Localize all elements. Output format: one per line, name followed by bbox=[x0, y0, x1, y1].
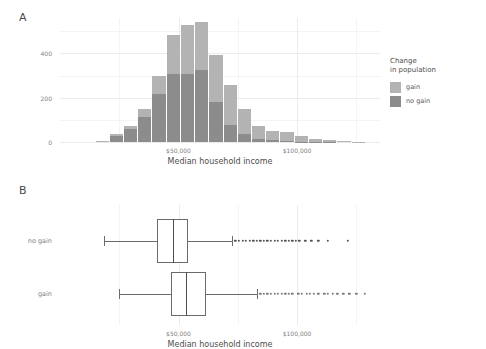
histogram-bar bbox=[110, 134, 123, 142]
histogram-segment-gain bbox=[323, 140, 336, 142]
boxplot-outlier bbox=[252, 240, 254, 242]
boxplot-outlier bbox=[280, 293, 282, 295]
boxplot-outlier bbox=[305, 293, 307, 295]
histogram-segment-no-gain bbox=[152, 94, 165, 142]
gridline-x-minor-125000 bbox=[356, 205, 357, 325]
histogram-segment-no-gain bbox=[280, 141, 293, 142]
boxplot-outlier bbox=[304, 240, 306, 242]
boxplot-outlier bbox=[263, 240, 265, 242]
histogram-bar bbox=[209, 55, 222, 142]
histogram-segment-no-gain bbox=[252, 139, 265, 142]
histogram-segment-gain bbox=[181, 25, 194, 74]
boxplot-outlier bbox=[348, 293, 350, 295]
boxplot-median-line bbox=[173, 219, 174, 263]
legend-a-title-line1: Change bbox=[390, 57, 486, 66]
histogram-bar bbox=[280, 132, 293, 142]
histogram-segment-gain bbox=[209, 55, 222, 103]
boxplot-outlier bbox=[259, 240, 261, 242]
boxplot-outlier bbox=[284, 240, 286, 242]
legend-a-item-no-gain[interactable]: no gain bbox=[390, 94, 486, 108]
panel-b-row-label-gain: gain bbox=[8, 290, 52, 298]
boxplot-outlier bbox=[310, 240, 312, 242]
histogram-segment-gain bbox=[110, 134, 123, 136]
boxplot-outlier bbox=[363, 293, 365, 295]
panel-b-xtick-50000: $50,000 bbox=[166, 330, 191, 337]
figure-root: A 0200400$50,000$100,000Median household… bbox=[0, 0, 486, 349]
histogram-bar bbox=[295, 136, 308, 142]
histogram-segment-no-gain bbox=[138, 117, 151, 142]
legend-a-label-no-gain: no gain bbox=[406, 97, 430, 105]
histogram-segment-no-gain bbox=[209, 102, 222, 142]
boxplot-outlier bbox=[263, 293, 265, 295]
histogram-segment-gain bbox=[295, 136, 308, 141]
boxplot-outlier bbox=[327, 293, 329, 295]
histogram-bar bbox=[96, 141, 109, 142]
boxplot-whisker-cap bbox=[119, 289, 120, 299]
panel-b: B $50,000$100,000no gaingainMedian house… bbox=[0, 175, 486, 349]
boxplot-outlier bbox=[342, 293, 344, 295]
boxplot-outlier bbox=[241, 240, 243, 242]
panel-a-xtick-100000: $100,000 bbox=[283, 147, 312, 154]
histogram-segment-no-gain bbox=[266, 140, 279, 142]
histogram-segment-gain bbox=[280, 132, 293, 141]
panel-a-plot-area bbox=[60, 18, 380, 142]
boxplot-outlier bbox=[301, 293, 303, 295]
histogram-segment-gain bbox=[124, 126, 137, 129]
legend-swatch-no-gain-icon bbox=[390, 96, 401, 107]
histogram-bar bbox=[195, 22, 208, 142]
histogram-segment-no-gain bbox=[195, 70, 208, 142]
legend-a-item-gain[interactable]: gain bbox=[390, 80, 486, 94]
boxplot-outlier bbox=[277, 240, 279, 242]
histogram-bar bbox=[167, 35, 180, 142]
histogram-bar bbox=[309, 139, 322, 142]
histogram-segment-gain bbox=[224, 85, 237, 124]
panel-b-xtick-100000: $100,000 bbox=[283, 330, 312, 337]
boxplot-whisker-cap bbox=[232, 236, 233, 246]
histogram-bar bbox=[152, 76, 165, 142]
panel-b-xaxis-title: Median household income bbox=[168, 340, 273, 349]
boxplot-outlier bbox=[266, 293, 268, 295]
histogram-bar bbox=[181, 25, 194, 142]
histogram-segment-gain bbox=[195, 22, 208, 70]
boxplot-outlier bbox=[317, 293, 319, 295]
panel-a-xaxis-title: Median household income bbox=[168, 157, 273, 166]
panel-a-ytick-400: 400 bbox=[22, 50, 52, 57]
gridline-y-0 bbox=[60, 142, 380, 143]
legend-a-title-line2: in population bbox=[390, 66, 486, 75]
histogram-segment-no-gain bbox=[96, 141, 109, 142]
boxplot-outlier bbox=[280, 240, 282, 242]
boxplot-outlier bbox=[256, 240, 258, 242]
gridline-x-100000 bbox=[297, 18, 298, 142]
boxplot-outlier bbox=[266, 240, 268, 242]
histogram-bar bbox=[252, 126, 265, 142]
histogram-segment-no-gain bbox=[110, 136, 123, 142]
histogram-segment-no-gain bbox=[124, 129, 137, 142]
panel-b-row-label-no-gain: no gain bbox=[8, 237, 52, 245]
panel-a-ytick-200: 200 bbox=[22, 94, 52, 101]
boxplot-outlier bbox=[317, 240, 319, 242]
panel-b-plot-area bbox=[60, 205, 380, 325]
boxplot-median-line bbox=[186, 272, 187, 316]
legend-a-label-gain: gain bbox=[406, 83, 420, 91]
histogram-bar bbox=[138, 109, 151, 142]
boxplot-outlier bbox=[291, 293, 293, 295]
boxplot-outlier bbox=[277, 293, 279, 295]
histogram-bar bbox=[224, 85, 237, 142]
boxplot-outlier bbox=[323, 293, 325, 295]
histogram-segment-gain bbox=[266, 131, 279, 140]
boxplot-outlier bbox=[336, 293, 338, 295]
boxplot-box bbox=[171, 272, 205, 316]
boxplot-outlier bbox=[259, 293, 261, 295]
histogram-segment-gain bbox=[167, 35, 180, 75]
panel-a-xtick-50000: $50,000 bbox=[166, 147, 191, 154]
gridline-x-minor-25000 bbox=[119, 205, 120, 325]
gridline-x-minor-125000 bbox=[356, 18, 357, 142]
histogram-segment-gain bbox=[337, 141, 350, 142]
boxplot-outlier bbox=[347, 240, 349, 242]
panel-a-tag: A bbox=[19, 11, 27, 24]
boxplot-outlier bbox=[291, 240, 293, 242]
histogram-segment-gain bbox=[238, 109, 251, 134]
legend-swatch-gain-icon bbox=[390, 82, 401, 93]
boxplot-outlier bbox=[284, 293, 286, 295]
histogram-segment-gain bbox=[152, 76, 165, 94]
